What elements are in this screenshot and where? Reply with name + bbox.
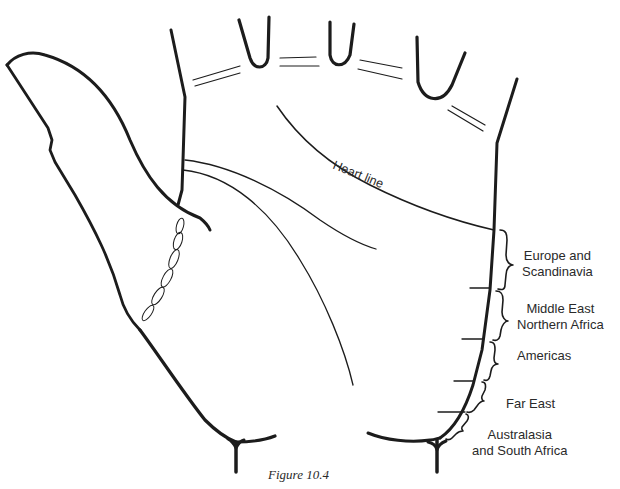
figure-caption: Figure 10.4 [268,467,329,483]
finger-creases [193,57,485,131]
finger-bases [239,17,465,99]
palm-right-edge [368,79,517,472]
thumb-chain [140,217,185,322]
region-label-middle-east: Middle East Northern Africa [517,301,604,333]
region-label-americas: Americas [517,348,571,364]
palm-diagram-figure: Heart line Europe and Scandinavia Middle… [0,0,620,489]
thumb-outline [7,53,210,330]
region-label-europe: Europe and Scandinavia [522,248,593,280]
heart-line [277,106,494,230]
hand-outline-drawing [0,0,620,489]
palm-left-edge [140,30,275,472]
region-braces [446,230,513,440]
region-label-australasia: Australasia and South Africa [472,427,567,459]
region-label-far-east: Far East [506,396,555,412]
life-line [183,170,353,385]
